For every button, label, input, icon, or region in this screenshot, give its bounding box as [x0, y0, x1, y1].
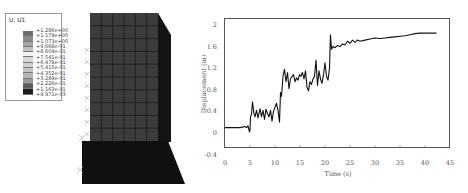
x-tick-label: 25: [346, 159, 354, 167]
y-tick-label: 2: [213, 21, 217, 29]
x-tick-label: 0: [223, 159, 227, 167]
displacement-chart: -0.400.40.81.21.62 051015202530354045 Di…: [0, 0, 468, 193]
x-tick-label: 45: [446, 159, 454, 167]
y-tick-label: -0.4: [204, 151, 217, 159]
y-tick-label: 1.2: [207, 64, 217, 72]
x-tick-label: 30: [371, 159, 379, 167]
displacement-line: [225, 33, 437, 132]
y-tick-label: 0.4: [207, 107, 217, 115]
y-tick-label: 0.8: [207, 86, 217, 94]
x-tick-label: 20: [321, 159, 329, 167]
x-tick-label: 35: [396, 159, 404, 167]
x-tick-label: 5: [248, 159, 252, 167]
x-tick-label: 15: [296, 159, 304, 167]
y-tick-label: 0: [213, 129, 217, 137]
y-tick-label: 1.6: [207, 43, 217, 51]
x-tick-label: 10: [271, 159, 279, 167]
x-tick-label: 40: [421, 159, 429, 167]
plot-frame: [225, 19, 450, 148]
y-axis-label: Displacement (m): [200, 54, 208, 113]
x-axis-ticks: 051015202530354045: [223, 145, 454, 167]
x-axis-label: Time (s): [325, 170, 352, 178]
